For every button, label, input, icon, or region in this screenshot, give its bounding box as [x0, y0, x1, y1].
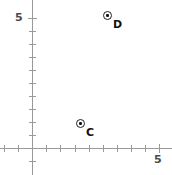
y-axis-tick [29, 135, 36, 136]
data-point-c-label: C [86, 127, 94, 138]
y-axis-tick [29, 96, 36, 97]
x-axis-tick [145, 145, 146, 152]
y-axis-tick [29, 122, 36, 123]
data-point-d[interactable] [103, 11, 112, 20]
y-axis-tick [29, 109, 36, 110]
y-axis-label-5: 5 [15, 12, 23, 23]
y-axis-tick [29, 161, 36, 162]
x-axis-line [0, 148, 172, 149]
x-axis-tick [4, 145, 5, 152]
x-axis-tick [18, 145, 19, 152]
x-axis-tick [103, 145, 104, 152]
x-axis-tick [89, 145, 90, 152]
x-axis-tick [60, 145, 61, 152]
x-axis-tick [46, 145, 47, 152]
x-axis-tick [131, 145, 132, 152]
x-axis-label-5: 5 [154, 154, 162, 165]
y-axis-tick [29, 57, 36, 58]
y-axis-tick [29, 70, 36, 71]
y-axis-tick [29, 83, 36, 84]
x-axis-tick [75, 145, 76, 152]
y-axis-tick [29, 31, 36, 32]
coordinate-plane-plot: 5 5 C D [0, 0, 172, 175]
x-axis-tick-major-5 [159, 144, 160, 153]
y-axis-tick-major-5 [28, 18, 37, 19]
x-axis-tick [117, 145, 118, 152]
y-axis-line [32, 0, 33, 175]
data-point-d-label: D [113, 19, 122, 30]
y-axis-tick [29, 44, 36, 45]
data-point-c[interactable] [76, 119, 85, 128]
